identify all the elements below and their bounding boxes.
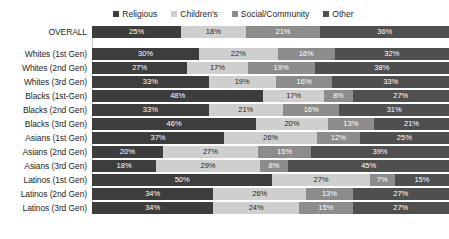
bar-segment-value: 34% — [145, 190, 160, 198]
bar-segment[interactable]: 26% — [213, 188, 306, 200]
bar-row: Blacks (1st-Gen)48%17%8%27% — [0, 90, 449, 102]
bar-segment-value: 27% — [203, 148, 218, 156]
bar-segment[interactable]: 24% — [213, 202, 299, 214]
bar-segment-value: 34% — [145, 204, 160, 212]
bar-segment[interactable]: 21% — [209, 104, 283, 116]
stacked-bar: 34%26%13%27% — [92, 188, 449, 200]
bar-segment-value: 36% — [377, 28, 392, 36]
bar-segment[interactable]: 8% — [324, 90, 353, 102]
bar-segment[interactable]: 25% — [92, 26, 181, 38]
plot-area: OVERALL25%18%21%36%Whites (1st Gen)30%22… — [0, 26, 449, 214]
bar-row: Latinos (3rd Gen)34%24%15%27% — [0, 202, 449, 214]
category-label: Asians (1st Gen) — [0, 134, 92, 143]
bar-segment[interactable]: 27% — [353, 90, 449, 102]
bar-segment[interactable]: 33% — [92, 104, 209, 116]
bar-segment-value: 15% — [277, 148, 292, 156]
bar-segment[interactable]: 33% — [92, 76, 209, 88]
bar-segment-value: 7% — [377, 176, 388, 184]
bar-segment-value: 20% — [120, 148, 135, 156]
bar-segment[interactable]: 27% — [163, 146, 258, 158]
stacked-bar: 37%26%12%25% — [92, 132, 449, 144]
bar-segment[interactable]: 16% — [276, 76, 333, 88]
bar-segment-value: 30% — [138, 50, 153, 58]
bar-segment[interactable]: 27% — [92, 62, 187, 74]
bar-segment[interactable]: 15% — [299, 202, 353, 214]
bar-segment[interactable]: 19% — [209, 76, 276, 88]
bar-segment[interactable]: 18% — [92, 160, 156, 172]
bar-segment[interactable]: 31% — [339, 104, 449, 116]
bar-segment[interactable]: 25% — [360, 132, 449, 144]
bar-segment[interactable]: 27% — [353, 202, 449, 214]
bar-segment[interactable]: 32% — [335, 48, 449, 60]
bar-segment-value: 16% — [297, 78, 312, 86]
stacked-bar: 33%21%16%31% — [92, 104, 449, 116]
bar-segment[interactable]: 18% — [181, 26, 245, 38]
bar-segment[interactable]: 33% — [332, 76, 449, 88]
bar-segment-value: 33% — [383, 78, 398, 86]
bar-segment[interactable]: 34% — [92, 188, 213, 200]
bar-segment-value: 20% — [284, 120, 299, 128]
bar-segment[interactable]: 39% — [311, 146, 449, 158]
bar-segment-value: 29% — [201, 162, 216, 170]
bar-segment-value: 38% — [374, 64, 389, 72]
bar-segment[interactable]: 48% — [92, 90, 263, 102]
legend-item[interactable]: Religious — [113, 10, 157, 19]
bar-segment[interactable]: 37% — [92, 132, 224, 144]
bar-segment[interactable]: 26% — [224, 132, 317, 144]
bar-segment[interactable]: 27% — [272, 174, 369, 186]
bar-segment[interactable]: 36% — [320, 26, 449, 38]
bar-segment[interactable]: 17% — [187, 62, 247, 74]
bar-segment[interactable]: 27% — [353, 188, 449, 200]
legend-item[interactable]: Children's — [171, 10, 218, 19]
stacked-bar: 25%18%21%36% — [92, 26, 449, 38]
bar-row: Blacks (3rd Gen)46%20%13%21% — [0, 118, 449, 130]
stacked-bar-chart: ReligiousChildren'sSocial/CommunityOther… — [0, 0, 449, 239]
bar-segment[interactable]: 7% — [370, 174, 395, 186]
bar-segment-value: 32% — [384, 50, 399, 58]
bar-segment-value: 25% — [397, 134, 412, 142]
bar-segment[interactable]: 20% — [256, 118, 327, 130]
legend-label: Other — [332, 10, 353, 19]
legend-swatch-icon — [323, 11, 329, 17]
bar-segment[interactable]: 13% — [328, 118, 374, 130]
bar-segment[interactable]: 16% — [278, 48, 335, 60]
bar-segment[interactable]: 29% — [156, 160, 260, 172]
bar-segment[interactable]: 50% — [92, 174, 272, 186]
bar-segment-value: 15% — [318, 204, 333, 212]
bar-segment[interactable]: 38% — [315, 62, 449, 74]
bar-segment[interactable]: 16% — [283, 104, 340, 116]
bar-segment[interactable]: 21% — [374, 118, 449, 130]
bar-segment-value: 21% — [404, 120, 419, 128]
bar-segment[interactable]: 21% — [246, 26, 321, 38]
bar-segment-value: 31% — [387, 106, 402, 114]
bar-segment[interactable]: 8% — [260, 160, 289, 172]
chart-legend: ReligiousChildren'sSocial/CommunityOther — [0, 0, 449, 24]
bar-segment[interactable]: 46% — [92, 118, 256, 130]
bar-segment[interactable]: 34% — [92, 202, 213, 214]
bar-segment-value: 17% — [210, 64, 225, 72]
bar-segment[interactable]: 22% — [199, 48, 278, 60]
bar-segment[interactable]: 15% — [395, 174, 449, 186]
bar-segment-value: 26% — [263, 134, 278, 142]
bar-segment[interactable]: 30% — [92, 48, 199, 60]
bar-segment[interactable]: 17% — [263, 90, 324, 102]
bar-segment-value: 22% — [231, 50, 246, 58]
bar-segment[interactable]: 13% — [306, 188, 352, 200]
bar-segment[interactable]: 12% — [317, 132, 360, 144]
bar-rows: OVERALL25%18%21%36%Whites (1st Gen)30%22… — [0, 26, 449, 214]
bar-row: Whites (1st Gen)30%22%16%32% — [0, 48, 449, 60]
category-label: Latinos (2nd Gen) — [0, 190, 92, 199]
bar-segment[interactable]: 20% — [92, 146, 163, 158]
bar-segment[interactable]: 15% — [258, 146, 311, 158]
legend-item[interactable]: Social/Community — [232, 10, 310, 19]
bar-segment[interactable]: 19% — [248, 62, 315, 74]
bar-segment[interactable]: 45% — [288, 160, 449, 172]
bar-segment-value: 24% — [249, 204, 264, 212]
bar-row: Latinos (2nd Gen)34%26%13%27% — [0, 188, 449, 200]
bar-segment-value: 16% — [304, 106, 319, 114]
stacked-bar: 46%20%13%21% — [92, 118, 449, 130]
stacked-bar: 33%19%16%33% — [92, 76, 449, 88]
stacked-bar: 50%27%7%15% — [92, 174, 449, 186]
legend-item[interactable]: Other — [323, 10, 353, 19]
bar-segment-value: 27% — [313, 176, 328, 184]
